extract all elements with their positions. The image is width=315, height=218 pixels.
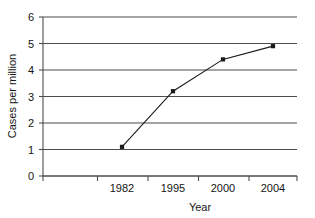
y-tick-label-0: 0 [28,170,34,182]
x-tick-label-2004: 2004 [261,182,285,194]
x-tick-label-1982: 1982 [110,182,134,194]
data-point-1995 [171,89,175,93]
line-chart: 6 5 4 3 2 1 0 1982 1995 2000 2004 [0,0,315,218]
y-axis-title: Cases per million [6,54,18,138]
data-point-1982 [120,145,124,149]
x-tick-label-1995: 1995 [161,182,185,194]
y-tick-label-6: 6 [28,11,34,23]
y-tick-label-4: 4 [28,64,34,76]
chart-figure: 6 5 4 3 2 1 0 1982 1995 2000 2004 [0,0,315,218]
x-axis-title: Year [189,201,212,213]
x-tick-label-2000: 2000 [211,182,235,194]
y-tick-label-1: 1 [28,144,34,156]
data-point-2000 [221,57,225,61]
y-tick-label-3: 3 [28,91,34,103]
y-tick-label-5: 5 [28,38,34,50]
data-point-2004 [271,44,275,48]
y-tick-label-2: 2 [28,117,34,129]
